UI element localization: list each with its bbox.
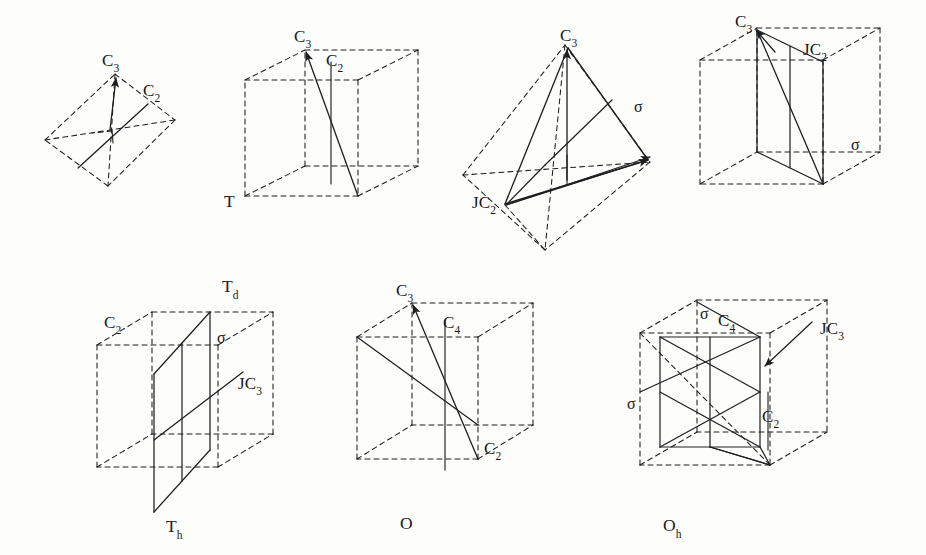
panel-7-caption: Oh xyxy=(663,517,681,538)
panel-1-c2-axis-label: C2 xyxy=(143,82,161,103)
panel-7-jc3-axis-label: JC3 xyxy=(820,320,844,341)
panel-7-c4-axis-label: C4 xyxy=(718,312,736,333)
panel-4-caption: Td xyxy=(222,278,238,299)
panel-5-jc3-axis-label: JC3 xyxy=(238,375,262,396)
panel-5-caption: Th xyxy=(166,518,182,539)
panel-1-c3-axis-label: C3 xyxy=(102,52,120,73)
panel-2-c3-axis-label: C3 xyxy=(294,28,312,49)
panel-5-sigma-plane-label: σ xyxy=(217,330,226,346)
panel-4-jc2-axis-label: JC2 xyxy=(803,41,827,62)
panel-4-c3-axis-label: C3 xyxy=(735,13,753,34)
panel-7-sigma-left-label: σ xyxy=(627,396,636,412)
panel-4-cube xyxy=(700,28,880,184)
panel-2-c2-axis-label: C2 xyxy=(326,52,344,73)
panel-3-jc2-axis-label: JC2 xyxy=(472,194,496,215)
panel-6-c4-axis-label: C4 xyxy=(443,314,461,335)
panel-4-sigma-plane-label: σ xyxy=(851,137,860,153)
panel-3-sigma-plane-label: σ xyxy=(634,99,643,115)
symmetry-diagrams-svg xyxy=(0,0,926,555)
figure-canvas: C3 C2 C3 C2 T C3 JC2 σ C3 JC2 σ Td C2 σ … xyxy=(0,0,926,555)
panel-2-caption: T xyxy=(224,193,235,214)
panel-7-c2-axis-label: C2 xyxy=(762,408,780,429)
panel-6-c3-axis-label: C3 xyxy=(396,282,414,303)
panel-3-tetrahedron xyxy=(463,45,650,250)
panel-6-c2-axis-label: C2 xyxy=(484,440,502,461)
panel-5-cube xyxy=(97,312,273,512)
panel-6-caption: O xyxy=(400,515,413,536)
panel-7-sigma-top-label: σ xyxy=(700,306,709,322)
panel-5-c2-axis-label: C2 xyxy=(104,314,122,335)
panel-3-c3-axis-label: C3 xyxy=(560,27,578,48)
